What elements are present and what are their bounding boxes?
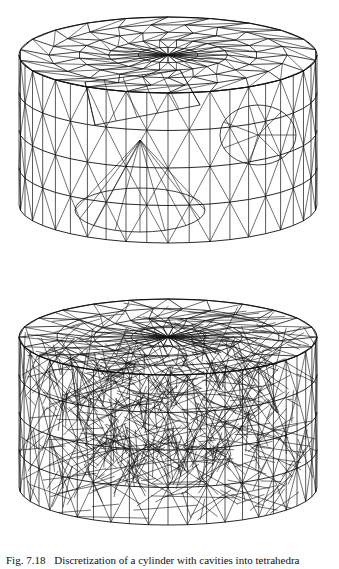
- figure-cylinder-volume-mesh: [0, 285, 339, 547]
- caption-label: Fig. 7.18: [6, 554, 45, 566]
- cylinder-volume-mesh-icon: [0, 285, 339, 547]
- figure-cylinder-surface-mesh: [0, 0, 339, 285]
- caption-text: Discretization of a cylinder with caviti…: [54, 554, 299, 566]
- cylinder-surface-mesh-icon: [0, 0, 339, 285]
- figure-caption: Fig. 7.18 Discretization of a cylinder w…: [6, 554, 336, 567]
